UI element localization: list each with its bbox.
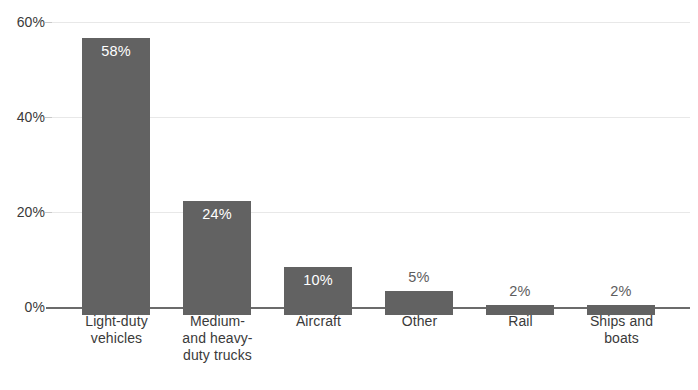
xlabel-line: and heavy-	[167, 330, 268, 347]
ytick-stub-20	[45, 212, 52, 213]
bar-light-duty-vehicles[interactable]: 58%	[82, 38, 150, 315]
bar-aircraft[interactable]: 10%	[284, 267, 352, 315]
ytick-label-40: 40%	[0, 110, 45, 124]
bar-slot-rail: 2%	[470, 7, 571, 315]
ytick-label-60: 60%	[0, 15, 45, 29]
bar-slot-other: 5%	[369, 7, 470, 315]
ytick-stub-40	[45, 117, 52, 118]
xlabel-medium-heavy-trucks: Medium- and heavy- duty trucks	[167, 313, 268, 364]
xlabel-aircraft: Aircraft	[268, 313, 369, 330]
bar-label-light-duty-vehicles: 58%	[82, 44, 150, 60]
bar-slot-medium-heavy-trucks: 24%	[167, 7, 268, 315]
bar-label-aircraft: 10%	[284, 273, 352, 289]
xlabel-line: Light-duty	[66, 313, 167, 330]
plot-area: 60% 40% 20% 0% 58% 24% 10% 5% 2%	[0, 0, 698, 315]
xlabel-line: Aircraft	[268, 313, 369, 330]
bar-label-other: 5%	[385, 270, 453, 286]
ytick-label-0: 0%	[0, 300, 45, 314]
xlabel-line: boats	[571, 330, 672, 347]
bar-slot-light-duty-vehicles: 58%	[66, 7, 167, 315]
xlabel-line: Other	[369, 313, 470, 330]
bar-slot-aircraft: 10%	[268, 7, 369, 315]
xlabel-line: Medium-	[167, 313, 268, 330]
xlabel-light-duty-vehicles: Light-duty vehicles	[66, 313, 167, 347]
bar-other[interactable]	[385, 291, 453, 315]
xlabel-line: duty trucks	[167, 347, 268, 364]
bar-medium-heavy-trucks[interactable]: 24%	[183, 201, 251, 315]
bar-label-medium-heavy-trucks: 24%	[183, 207, 251, 223]
xlabel-line: vehicles	[66, 330, 167, 347]
bar-slot-ships-and-boats: 2%	[571, 7, 672, 315]
xlabel-other: Other	[369, 313, 470, 330]
bar-chart: 60% 40% 20% 0% 58% 24% 10% 5% 2%	[0, 0, 698, 390]
xlabel-ships-and-boats: Ships and boats	[571, 313, 672, 347]
ytick-label-20: 20%	[0, 205, 45, 219]
x-axis-category-labels: Light-duty vehicles Medium- and heavy- d…	[0, 313, 698, 390]
xlabel-rail: Rail	[470, 313, 571, 330]
xlabel-line: Ships and	[571, 313, 672, 330]
bar-label-rail: 2%	[486, 284, 554, 300]
xlabel-line: Rail	[470, 313, 571, 330]
bar-label-ships-and-boats: 2%	[587, 284, 655, 300]
ytick-stub-60	[45, 22, 52, 23]
